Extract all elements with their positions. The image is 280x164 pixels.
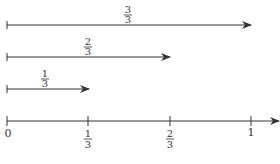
fraction-denominator: 3 [85, 46, 91, 57]
arrow-one-third: 1 3 [7, 68, 89, 93]
tick-label-1: 1 [248, 126, 255, 139]
fraction-denominator: 3 [125, 14, 131, 25]
tick-label-one-third-den: 3 [85, 139, 91, 150]
arrow-two-thirds: 2 3 [7, 36, 170, 61]
fraction-denominator: 3 [42, 78, 48, 89]
number-line-diagram: 3 3 2 3 1 3 0 1 3 2 3 1 [0, 0, 280, 164]
tick-label-two-thirds-den: 3 [167, 139, 173, 150]
number-line-axis: 0 1 3 2 3 1 [5, 116, 280, 150]
tick-label-0: 0 [5, 127, 12, 140]
tick-label-two-thirds-num: 2 [167, 128, 173, 139]
tick-label-one-third-num: 1 [85, 128, 91, 139]
arrow-three-thirds: 3 3 [7, 4, 251, 29]
